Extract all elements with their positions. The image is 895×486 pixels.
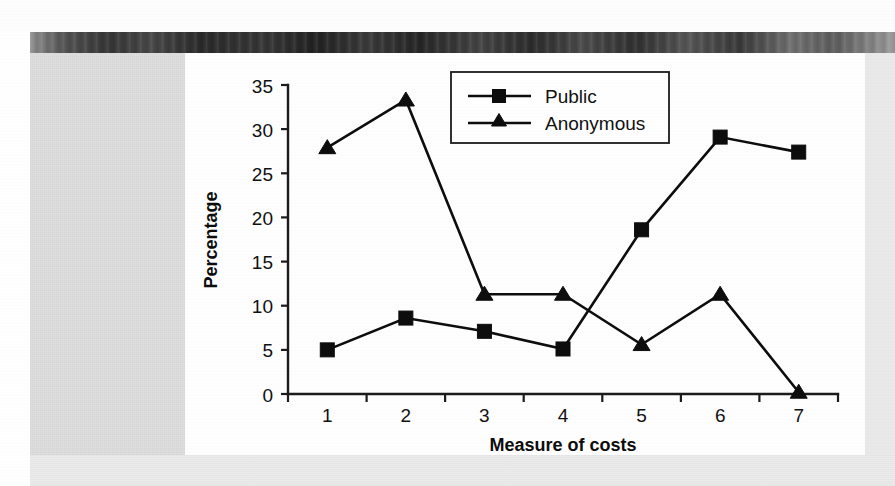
x-axis-tick-labels: 1 2 3 4 5 6 7 [322, 405, 804, 426]
scanned-page: 0 5 10 15 20 25 30 35 Percentage [0, 0, 895, 486]
x-tick-label: 7 [793, 405, 804, 426]
y-tick-label: 30 [252, 120, 273, 141]
scan-artifact-band [30, 32, 895, 53]
page-bottom-strip [30, 455, 895, 486]
x-tick-label: 1 [322, 405, 333, 426]
y-tick-label: 10 [252, 296, 273, 317]
y-tick-label: 20 [252, 208, 273, 229]
y-tick-label: 35 [252, 76, 273, 97]
legend-label-anonymous: Anonymous [545, 113, 645, 134]
square-marker-icon [635, 223, 649, 237]
x-axis-title: Measure of costs [489, 435, 636, 455]
square-marker-icon [713, 130, 727, 144]
triangle-marker-icon [397, 92, 414, 106]
square-marker-icon [792, 145, 806, 159]
triangle-marker-icon [712, 286, 729, 300]
page-right-strip [865, 53, 895, 455]
x-tick-label: 4 [558, 405, 569, 426]
y-tick-label: 0 [262, 385, 273, 406]
x-tick-label: 6 [715, 405, 726, 426]
legend-label-public: Public [545, 86, 597, 107]
square-marker-icon [493, 90, 506, 103]
line-chart: 0 5 10 15 20 25 30 35 Percentage [185, 53, 865, 455]
y-axis-tick-labels: 0 5 10 15 20 25 30 35 [252, 76, 273, 406]
square-marker-icon [556, 342, 570, 356]
triangle-marker-icon [319, 140, 336, 154]
y-axis-title: Percentage [201, 191, 221, 288]
x-tick-label: 5 [636, 405, 647, 426]
page-left-gutter [30, 53, 185, 455]
square-marker-icon [477, 324, 491, 338]
y-tick-label: 15 [252, 252, 273, 273]
x-tick-label: 2 [401, 405, 412, 426]
y-tick-label: 5 [262, 340, 273, 361]
chart-legend: Public Anonymous [451, 72, 669, 143]
square-marker-icon [320, 343, 334, 357]
square-marker-icon [399, 311, 413, 325]
y-tick-label: 25 [252, 164, 273, 185]
series-line-public [327, 137, 798, 350]
x-tick-label: 3 [479, 405, 490, 426]
triangle-marker-icon [633, 337, 650, 351]
figure-canvas: 0 5 10 15 20 25 30 35 Percentage [185, 53, 865, 455]
page-top-margin [0, 0, 895, 32]
